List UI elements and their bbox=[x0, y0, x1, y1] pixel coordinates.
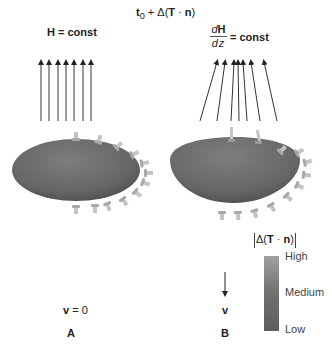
colorbar-label-high: High bbox=[285, 250, 308, 262]
gradient-field-label: dH dz = const bbox=[210, 24, 269, 49]
uniform-field-label: H = const bbox=[47, 26, 97, 38]
colorbar-label-low: Low bbox=[285, 323, 305, 335]
gradient-field-arrows bbox=[200, 62, 277, 121]
figure-title: t0 + Δ(T · n) bbox=[136, 6, 195, 21]
ellipsoid-body-a bbox=[12, 139, 140, 201]
diagram-canvas bbox=[0, 0, 332, 351]
deformed-body-b bbox=[170, 137, 300, 203]
colorbar bbox=[264, 256, 279, 331]
colorbar-label-medium: Medium bbox=[285, 286, 324, 298]
panel-letter-a: A bbox=[67, 327, 75, 339]
velocity-label-b: v bbox=[222, 304, 228, 316]
velocity-label-a: v = 0 bbox=[63, 304, 88, 316]
uniform-field-arrows bbox=[41, 62, 91, 121]
colorbar-title: Δ(T · n) bbox=[253, 233, 297, 248]
panel-letter-b: B bbox=[221, 327, 229, 339]
